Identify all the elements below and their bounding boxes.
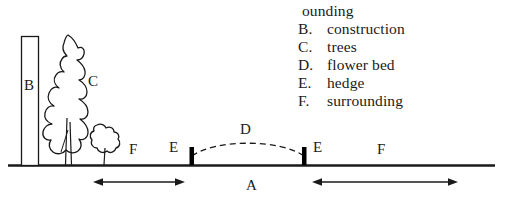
legend-truncated-text: ounding	[302, 2, 354, 20]
surrounding-left-arrow-head-left	[93, 178, 103, 186]
trees-label: C	[88, 74, 98, 89]
surrounding-right-arrow-head-right	[448, 178, 458, 186]
legend-label-b: construction	[327, 20, 503, 38]
hedge-right-bar	[302, 147, 307, 165]
legend-item-c: C. trees	[298, 38, 503, 56]
hedge-left-bar	[190, 147, 195, 165]
legend-label-d: flower bed	[327, 56, 503, 74]
flower-bed-arc	[192, 143, 304, 156]
area-label: A	[246, 178, 257, 193]
legend-label-f: surrounding	[327, 92, 503, 110]
surrounding-right-label: F	[377, 142, 385, 157]
flower-bed-label: D	[240, 122, 251, 137]
legend-label-c: trees	[327, 38, 503, 56]
legend-item-f: F. surrounding	[298, 92, 503, 110]
legend-key-b: B.	[298, 20, 327, 38]
surrounding-left-arrow-head-right	[175, 178, 185, 186]
figure-canvas: B C F E D E F A ounding B. construction …	[0, 0, 507, 209]
legend-label-e: hedge	[327, 74, 503, 92]
building-label: B	[24, 78, 34, 93]
tall-tree-canopy-icon	[43, 35, 88, 154]
legend-key-f: F.	[298, 92, 327, 110]
hedge-right-label: E	[313, 140, 322, 155]
surrounding-right-arrow-head-left	[312, 178, 322, 186]
building-rect	[22, 37, 39, 166]
legend-item-b: B. construction	[298, 20, 503, 38]
legend-item-e: E. hedge	[298, 74, 503, 92]
surrounding-left-label: F	[129, 142, 137, 157]
legend-item-d: D. flower bed	[298, 56, 503, 74]
hedge-left-label: E	[169, 140, 178, 155]
legend-key-c: C.	[298, 38, 327, 56]
legend-key-d: D.	[298, 56, 327, 74]
legend: ounding B. construction C. trees D. flow…	[298, 2, 503, 110]
legend-truncated-line: ounding	[298, 2, 503, 20]
legend-key-e: E.	[298, 74, 327, 92]
